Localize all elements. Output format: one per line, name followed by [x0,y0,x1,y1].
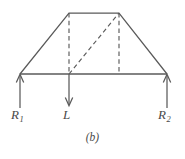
label-left-reaction-base: R [11,107,19,122]
arrow-up-icon-r1 [16,74,23,108]
label-load-base: L [63,107,70,122]
label-right-reaction: R2 [158,108,170,121]
label-left-reaction-subscript: 1 [19,114,23,124]
label-right-reaction-subscript: 2 [166,114,170,124]
label-left-reaction: R1 [11,108,23,121]
force-diagram-figure: R1 L R2 (b) [0,0,185,159]
figure-caption: (b) [0,132,185,144]
arrow-down-icon-l [65,74,72,106]
arrow-up-icon-r2 [163,74,170,108]
label-load: L [63,108,70,121]
label-right-reaction-base: R [158,107,166,122]
dashed-diagonal-member [69,13,119,74]
